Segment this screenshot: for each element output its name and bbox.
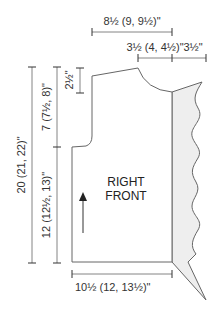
shoulder-drop-dimension [76,68,84,93]
bottom-width-label: 10½ (12, 13½)" [75,281,151,293]
shoulder-width-dimension [138,54,206,62]
bottom-width-dimension [72,270,172,278]
top-width-label: 8½ (9, 9½)" [103,15,160,27]
piece-label-line1: RIGHT [107,175,145,189]
armhole-depth-label: 7 (7½, 8)" [40,83,52,131]
schematic-diagram: 8½ (9, 9½)" 3½ (4, 4½)" 3½" 20 (21, 22)"… [0,0,220,315]
total-length-label: 20 (21, 22)" [15,136,27,193]
band-width-label: 3½" [183,41,202,53]
armhole-side-dimension [53,67,61,263]
front-body-outline [72,68,172,262]
shoulder-drop-label: 2½" [63,70,75,89]
total-length-dimension [28,67,36,263]
shoulder-width-label: 3½ (4, 4½)" [126,41,183,53]
side-length-label: 12 (12½, 13)" [40,172,52,238]
piece-label-line2: FRONT [105,189,147,203]
front-band [172,82,206,300]
top-width-dimension [92,28,172,36]
